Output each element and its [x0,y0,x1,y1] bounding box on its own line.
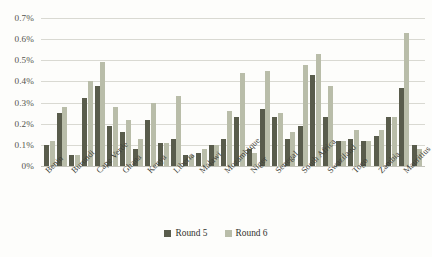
bar-group [157,18,170,166]
y-axis-tick-label: 0.4% [14,76,34,86]
bar-round-6 [265,71,270,166]
y-axis: 0.7%0.6%0.5%0.4%0.3%0.2%0.1%0% [0,18,38,166]
legend-item: Round 6 [225,228,268,238]
bar-group [284,18,297,166]
bar-group [195,18,208,166]
bar-round-6 [303,65,308,166]
bar-group [309,18,322,166]
bar-round-6 [176,96,181,166]
y-axis-tick-label: 0.2% [14,119,34,129]
bar-group [170,18,183,166]
y-axis-tick-label: 0.5% [14,55,34,65]
bar-group [43,18,56,166]
bar-round-6 [100,62,105,166]
legend-label: Round 5 [175,228,207,238]
bar-group [56,18,69,166]
bar-round-6 [62,107,67,166]
legend-swatch [225,230,232,237]
bar-group [208,18,221,166]
bar-round-5 [145,120,150,167]
legend-item: Round 5 [164,228,207,238]
y-axis-tick-label: 0.7% [14,13,34,23]
bar-group [132,18,145,166]
bar-group [360,18,373,166]
bar-chart: 0.7%0.6%0.5%0.4%0.3%0.2%0.1%0% BeninBuru… [0,0,432,257]
bar-group [182,18,195,166]
bar-group [233,18,246,166]
y-axis-tick-label: 0.3% [14,98,34,108]
bar-round-5 [298,126,303,166]
plot-area [41,18,425,166]
chart-legend: Round 5Round 6 [0,228,432,238]
bar-round-5 [374,136,379,166]
bar-round-5 [171,139,176,166]
bar-group [398,18,411,166]
bar-group [410,18,423,166]
bar-round-6 [328,86,333,166]
y-axis-tick-label: 0.1% [14,140,34,150]
x-axis-labels: BeninBurundiCape VerdeGhanaKenyaLiberiaM… [41,168,425,220]
bar-group [385,18,398,166]
bar-round-5 [221,139,226,166]
bar-round-6 [404,33,409,166]
bar-group [144,18,157,166]
legend-swatch [164,230,171,237]
bar-group [372,18,385,166]
bar-group [94,18,107,166]
bar-group [271,18,284,166]
bar-groups [41,18,425,166]
bar-group [68,18,81,166]
y-axis-tick-label: 0.6% [14,34,34,44]
bar-round-5 [272,117,277,166]
bar-group [296,18,309,166]
bar-group [81,18,94,166]
y-axis-tick-label: 0% [22,161,34,171]
bar-group [220,18,233,166]
legend-label: Round 6 [236,228,268,238]
